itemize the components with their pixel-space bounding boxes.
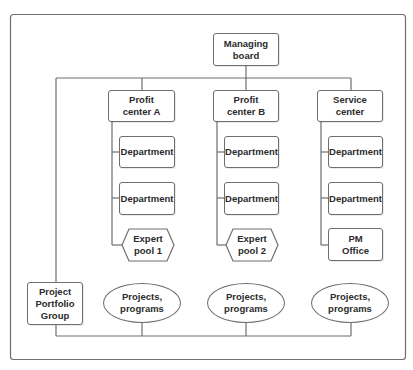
node-expert-pool-1: Expert pool 1 — [121, 228, 175, 262]
node-expert-pool-2: Expert pool 2 — [225, 228, 279, 262]
node-projects-programs-1: Projects, programs — [103, 283, 181, 323]
node-department-c1: Department — [328, 136, 383, 168]
expert-pool-2-label: Expert pool 2 — [225, 228, 279, 262]
node-profit-center-b: Profit center B — [213, 90, 279, 122]
node-pm-office: PM Office — [328, 228, 383, 261]
node-department-b1: Department — [224, 136, 279, 168]
expert-pool-1-label: Expert pool 1 — [121, 228, 175, 262]
node-service-center: Service center — [317, 90, 383, 122]
node-project-portfolio-group: Project Portfolio Group — [27, 282, 83, 325]
org-chart-diagram: Managing board Profit center A Profit ce… — [0, 0, 413, 370]
node-department-a1: Department — [119, 136, 175, 168]
node-profit-center-a: Profit center A — [108, 90, 175, 122]
node-department-a2: Department — [119, 182, 175, 215]
node-projects-programs-3: Projects, programs — [311, 283, 389, 323]
node-managing-board: Managing board — [213, 33, 279, 66]
node-department-c2: Department — [328, 182, 383, 215]
node-department-b2: Department — [224, 182, 279, 215]
node-projects-programs-2: Projects, programs — [207, 283, 285, 323]
